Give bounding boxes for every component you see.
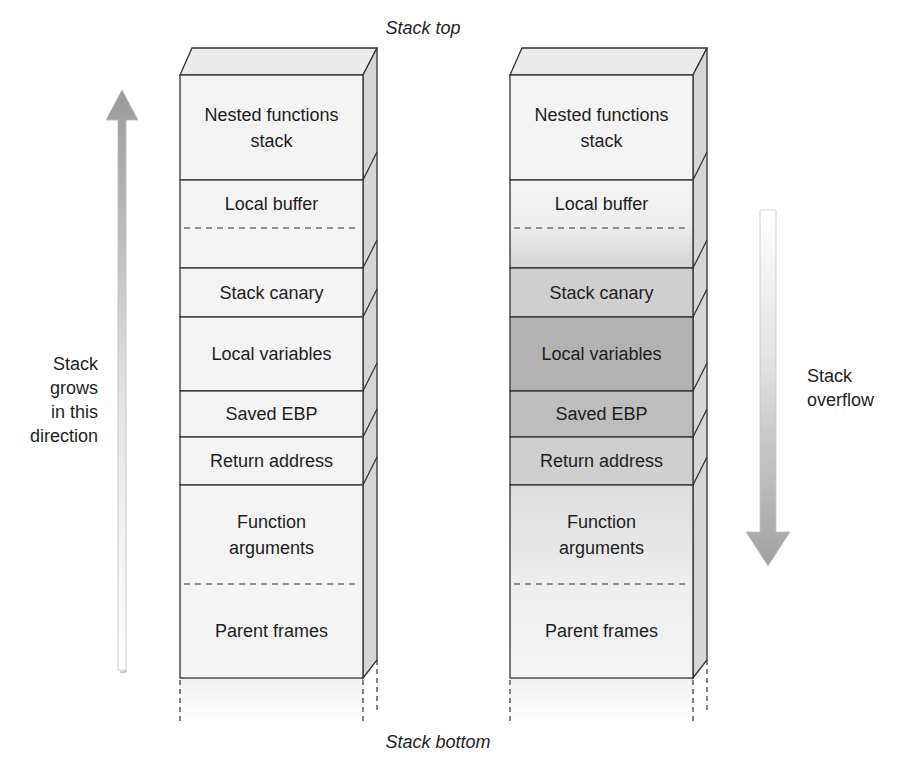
- stack-row: Nested functionsstack: [180, 75, 377, 180]
- stack-row-label: Nested functions: [534, 105, 668, 125]
- stack-row-label: Stack canary: [219, 283, 323, 303]
- stack-side-face: [693, 48, 707, 678]
- svg-text:in this: in this: [51, 402, 98, 422]
- stack-row: Parent framesFunctionarguments: [180, 485, 363, 678]
- stack-top-face: [510, 48, 707, 75]
- stack-overflow-arrow-icon: [746, 210, 790, 566]
- stack-tail: [510, 678, 693, 722]
- stack-row-label: stack: [580, 131, 623, 151]
- stack-row-label: Return address: [210, 451, 333, 471]
- stack-top-label: Stack top: [385, 18, 460, 38]
- svg-text:grows: grows: [50, 378, 98, 398]
- stack-diagram: Stack top Stack bottom Stack grows in th…: [0, 0, 903, 768]
- stack-tail: [180, 678, 363, 722]
- stack-row-label: Stack canary: [549, 283, 653, 303]
- stack-row-label: Local buffer: [555, 194, 649, 214]
- stack-row-label: Nested functions: [204, 105, 338, 125]
- stack-row-label: Local variables: [541, 344, 661, 364]
- svg-text:overflow: overflow: [807, 390, 875, 410]
- stack-row-label: Function: [237, 512, 306, 532]
- stack-cell: [510, 75, 693, 180]
- stack-row-label: stack: [250, 131, 293, 151]
- stack-row: Nested functionsstack: [510, 75, 707, 180]
- stack-row-label: Saved EBP: [225, 404, 317, 424]
- svg-text:direction: direction: [30, 426, 98, 446]
- stack-row: Local variables: [180, 317, 377, 391]
- stack-row-label: arguments: [229, 538, 314, 558]
- stack-normal: Nested functionsstackLocal bufferStack c…: [180, 48, 377, 722]
- stack-row: Stack canary: [180, 268, 377, 317]
- stack-row-label: Function: [567, 512, 636, 532]
- svg-text:Stack: Stack: [807, 366, 853, 386]
- stack-overflowed: Nested functionsstackLocal bufferStack c…: [510, 48, 707, 722]
- stack-row: Local buffer: [510, 180, 707, 268]
- stack-overflow-label: Stack overflow: [807, 366, 875, 410]
- stack-row: Saved EBP: [180, 391, 377, 437]
- stack-grows-label: Stack grows in this direction: [30, 354, 99, 446]
- stack-row-label: Saved EBP: [555, 404, 647, 424]
- svg-text:Stack: Stack: [53, 354, 99, 374]
- stack-row-label: Parent frames: [545, 621, 658, 641]
- stack-row-label: Parent frames: [215, 621, 328, 641]
- stack-row-label: Return address: [540, 451, 663, 471]
- stack-row: Local buffer: [180, 180, 377, 268]
- stack-bottom-label: Stack bottom: [385, 732, 490, 752]
- stack-cell: [180, 75, 363, 180]
- stack-row: Local variables: [510, 317, 707, 391]
- stack-row: Return address: [180, 437, 377, 485]
- stack-row: Saved EBP: [510, 391, 707, 437]
- stack-row: Return address: [510, 437, 707, 485]
- stack-side-face: [363, 48, 377, 678]
- stack-row: Stack canary: [510, 268, 707, 317]
- stack-grows-arrow-icon: [106, 90, 138, 672]
- stack-row-label: Local variables: [211, 344, 331, 364]
- stack-row-label: Local buffer: [225, 194, 319, 214]
- stack-row-label: arguments: [559, 538, 644, 558]
- stack-top-face: [180, 48, 377, 75]
- stack-row: Parent framesFunctionarguments: [510, 485, 693, 678]
